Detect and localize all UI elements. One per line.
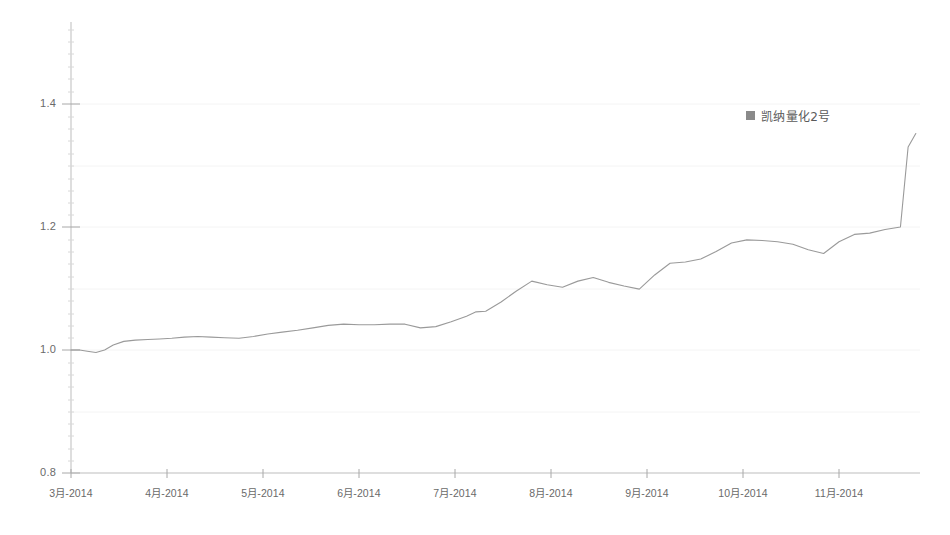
x-tick-label-mar-2014: 3月-2014 [26,485,116,500]
x-tick-label-apr-2014: 4月-2014 [122,485,212,500]
x-tick-label-jun-2014: 6月-2014 [314,485,404,500]
y-tick-label-1-2: 1.2 [16,220,56,232]
legend-series-label: 凯纳量化2号 [761,107,830,124]
x-tick-label-may-2014: 5月-2014 [218,485,308,500]
y-tick-label-1-0: 1.0 [16,343,56,355]
x-tick-label-nov-2014: 11月-2014 [794,485,884,500]
x-tick-label-aug-2014: 8月-2014 [506,485,596,500]
y-tick-label-0-8: 0.8 [16,466,56,478]
gridlines [71,104,920,412]
chart-container: 1.4 1.2 1.0 0.8 3月-2014 4月-2014 5月-2014 … [0,0,950,535]
x-tick-label-jul-2014: 7月-2014 [410,485,500,500]
legend-swatch-icon [746,111,755,120]
line-chart-plot [0,0,950,535]
chart-legend: 凯纳量化2号 [746,107,830,124]
x-tick-label-sep-2014: 9月-2014 [602,485,692,500]
x-tick-label-oct-2014: 10月-2014 [698,485,788,500]
y-tick-label-1-4: 1.4 [16,97,56,109]
